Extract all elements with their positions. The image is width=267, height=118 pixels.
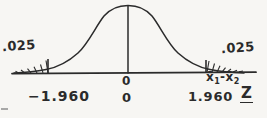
scan-artifact-mark xyxy=(1,108,8,110)
zero-lower-label: 0 xyxy=(122,90,131,105)
xbar2-subscript: 2 xyxy=(234,77,240,86)
z-axis-label: Z xyxy=(240,86,253,103)
xbar1-symbol: x̄ xyxy=(206,70,214,84)
zero-upper-label: 0 xyxy=(122,74,131,88)
critical-value-positive-label: 1.960 xyxy=(188,89,233,104)
critical-value-negative-label: −1.960 xyxy=(28,88,90,104)
xbar2-symbol: x̄ xyxy=(226,70,234,84)
statistic-axis-label: x̄1-x̄2 xyxy=(206,70,240,86)
alpha-left-label: .025 xyxy=(2,37,37,54)
alpha-right-label: .025 xyxy=(221,39,256,56)
